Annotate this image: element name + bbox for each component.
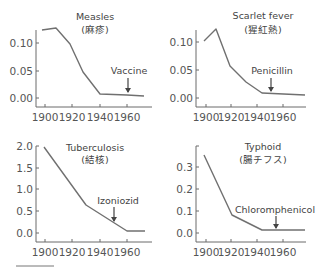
x-tick-label: 1920 — [218, 246, 245, 258]
y-tick-label: 0.05 — [10, 65, 33, 77]
panel-title: Typhoid — [244, 141, 281, 152]
y-tick-label: 0.5 — [16, 205, 33, 217]
panel-subtitle: (結核) — [81, 154, 108, 165]
panel-subtitle: (腸チフス) — [239, 154, 286, 165]
y-tick-label: 0.3 — [176, 161, 193, 173]
y-tick-label: 0.2 — [176, 183, 193, 195]
figure: Measles (麻疹) 0.10 0.05 0.00 1900 1920 19… — [0, 0, 322, 268]
x-tick-label: 1900 — [32, 246, 59, 258]
y-tick-label: 0.00 — [10, 92, 33, 104]
x-tick-label: 1940 — [87, 111, 114, 123]
y-tick-label: 0.0 — [16, 227, 33, 239]
y-tick-label: 0.0 — [176, 227, 193, 239]
arrowhead-icon — [273, 224, 279, 229]
panel-subtitle: (麻疹) — [81, 24, 108, 35]
panel-title: Tuberculosis — [65, 142, 124, 153]
annotation-label: Izoniozid — [97, 195, 139, 206]
data-line — [204, 29, 305, 95]
x-tick-label: 1940 — [87, 246, 114, 258]
panel-typhoid: Typhoid (腸チフス) 0.3 0.2 0.1 0.0 1900 1920… — [176, 141, 315, 258]
x-tick-label: 1940 — [244, 111, 271, 123]
arrowhead-icon — [125, 88, 131, 93]
x-tick-label: 1920 — [59, 111, 86, 123]
panel-measles: Measles (麻疹) 0.10 0.05 0.00 1900 1920 19… — [10, 11, 152, 123]
x-tick-label: 1900 — [32, 111, 59, 123]
arrowhead-icon — [268, 87, 274, 92]
y-tick-label: 1.0 — [16, 183, 33, 195]
x-tick-label: 1960 — [270, 246, 297, 258]
panel-subtitle: (猩紅熱) — [244, 24, 281, 35]
panel-title: Measles — [76, 11, 114, 22]
x-tick-label: 1900 — [193, 246, 220, 258]
x-tick-label: 1960 — [114, 111, 141, 123]
y-tick-label: 2.0 — [16, 140, 33, 152]
y-tick-label: 0.05 — [170, 64, 193, 76]
panel-title: Scarlet fever — [233, 10, 294, 21]
x-tick-label: 1900 — [193, 111, 220, 123]
annotation-label: Chloromphenicol — [235, 204, 315, 215]
y-tick-label: 0.1 — [176, 205, 193, 217]
x-tick-label: 1960 — [270, 111, 297, 123]
x-tick-label: 1920 — [59, 246, 86, 258]
x-tick-label: 1920 — [218, 111, 245, 123]
y-tick-label: 0.10 — [170, 36, 193, 48]
y-tick-label: 0.00 — [170, 92, 193, 104]
y-tick-label: 0.10 — [10, 37, 33, 49]
panel-scarlet-fever: Scarlet fever (猩紅熱) 0.10 0.05 0.00 1900 … — [170, 10, 306, 123]
x-tick-label: 1940 — [244, 246, 271, 258]
data-line — [42, 28, 144, 96]
x-tick-label: 1960 — [114, 246, 141, 258]
annotation-label: Vaccine — [111, 65, 148, 76]
y-tick-label: 1.5 — [16, 162, 33, 174]
annotation-label: Penicillin — [251, 65, 293, 76]
data-line — [204, 155, 305, 230]
panel-tuberculosis: Tuberculosis (結核) 2.0 1.5 1.0 0.5 0.0 19… — [16, 140, 152, 266]
